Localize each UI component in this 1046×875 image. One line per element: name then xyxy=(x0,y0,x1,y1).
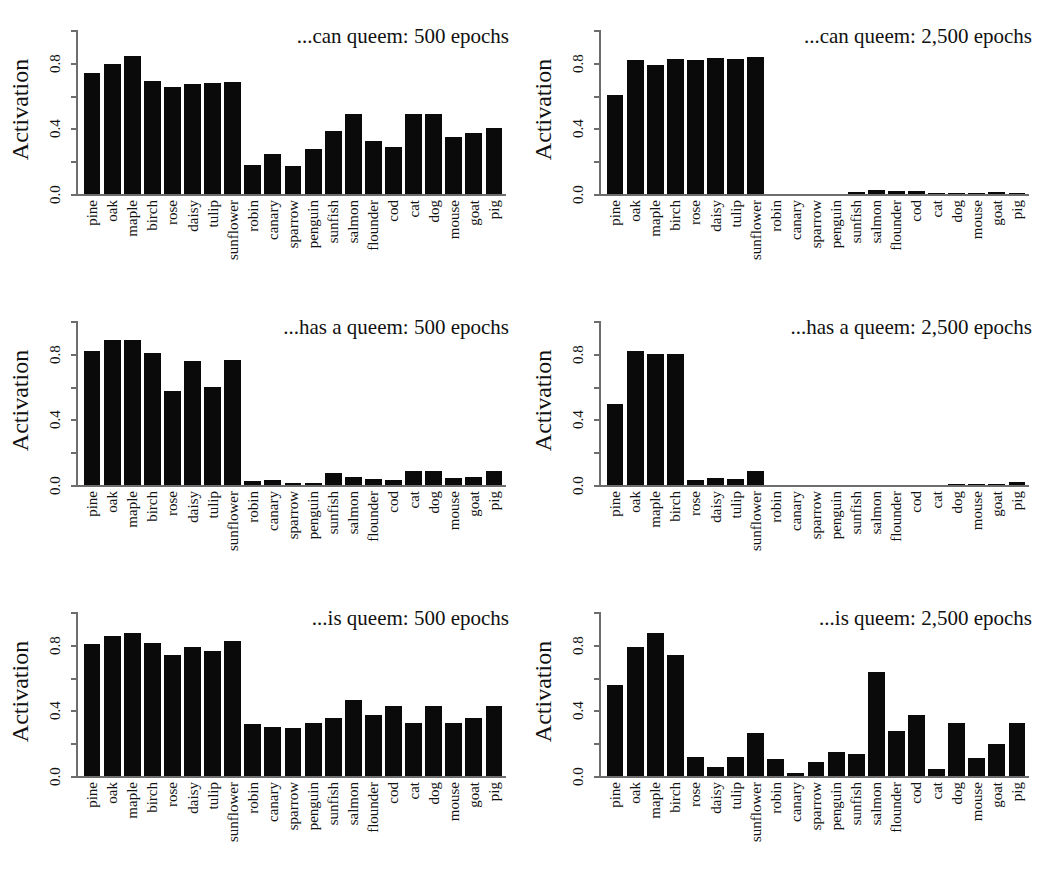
bar xyxy=(627,60,644,194)
x-tick-label: rose xyxy=(165,491,179,577)
x-tick-labels: pineoakmaplebirchrosedaisytulipsunflower… xyxy=(82,200,504,288)
x-axis-line xyxy=(78,485,506,487)
y-tick-mark xyxy=(594,678,599,680)
x-tick-label: pine xyxy=(85,491,99,577)
bar xyxy=(988,192,1005,194)
bar xyxy=(224,360,241,485)
x-tick-label: birch xyxy=(668,491,682,577)
bar xyxy=(224,641,241,776)
y-tick-labels: 0.00.40.8 xyxy=(563,600,593,782)
y-tick-mark xyxy=(594,161,599,163)
x-tick-label: sunfish xyxy=(326,782,340,868)
bar xyxy=(465,718,482,776)
bar xyxy=(465,477,482,485)
x-tick-label: penguin xyxy=(306,782,320,868)
y-tick-mark xyxy=(594,612,599,614)
x-tick-label: dog xyxy=(950,200,964,286)
bar xyxy=(204,387,221,485)
y-tick-mark xyxy=(71,128,76,130)
y-axis-title-text: Activation xyxy=(530,311,557,491)
bar xyxy=(848,754,865,776)
x-tick-label: sunfish xyxy=(326,491,340,577)
x-tick-label: sunflower xyxy=(226,782,240,868)
bar xyxy=(667,59,684,194)
x-tick-label: tulip xyxy=(729,200,743,286)
panel-title: ...is queem: 500 epochs xyxy=(312,606,509,631)
y-tick-label: 0.4 xyxy=(40,702,70,716)
bar xyxy=(405,114,422,194)
x-tick-label: cat xyxy=(930,491,944,577)
bar xyxy=(285,166,302,194)
y-tick-mark xyxy=(71,776,76,778)
y-tick-mark xyxy=(71,743,76,745)
bar xyxy=(647,633,664,777)
bar xyxy=(848,192,865,194)
bar xyxy=(1009,193,1026,194)
bar xyxy=(204,83,221,194)
bar xyxy=(707,767,724,776)
bar xyxy=(948,484,965,485)
bar xyxy=(988,484,1005,485)
y-tick-label: 0.0 xyxy=(40,477,70,491)
y-tick-label: 0.0 xyxy=(40,186,70,200)
x-tick-label: sunflower xyxy=(749,782,763,868)
bar xyxy=(486,706,503,776)
bar xyxy=(325,131,342,194)
bar xyxy=(84,73,101,194)
x-tick-label: dog xyxy=(427,782,441,868)
x-tick-label: daisy xyxy=(709,491,723,577)
bar xyxy=(727,479,744,485)
x-tick-label: robin xyxy=(769,782,783,868)
bar xyxy=(84,351,101,485)
x-tick-label: mouse xyxy=(447,491,461,577)
x-tick-label: flounder xyxy=(366,782,380,868)
x-tick-label: canary xyxy=(789,200,803,286)
x-tick-label: birch xyxy=(668,782,682,868)
x-tick-label: cod xyxy=(909,782,923,868)
x-tick-label: dog xyxy=(427,200,441,286)
x-tick-label: penguin xyxy=(306,491,320,577)
bar xyxy=(627,351,644,485)
bar xyxy=(345,477,362,485)
y-tick-labels: 0.00.40.8 xyxy=(40,600,70,782)
bar xyxy=(627,647,644,776)
bar xyxy=(184,84,201,194)
x-tick-label: goat xyxy=(990,200,1004,286)
panel-title: ...has a queem: 2,500 epochs xyxy=(791,315,1032,340)
x-tick-label: salmon xyxy=(869,491,883,577)
panel-title: ...is queem: 2,500 epochs xyxy=(819,606,1032,631)
figure-activation-panels: Activation0.00.40.8...can queem: 500 epo… xyxy=(0,0,1046,875)
x-tick-labels: pineoakmaplebirchrosedaisytulipsunflower… xyxy=(605,200,1027,288)
bar xyxy=(104,64,121,194)
y-tick-label: 0.4 xyxy=(563,120,593,134)
y-axis-title: Activation xyxy=(523,600,563,780)
x-tick-label: goat xyxy=(990,782,1004,868)
x-tick-label: cat xyxy=(407,200,421,286)
bar xyxy=(767,759,784,776)
x-tick-label: birch xyxy=(145,782,159,868)
y-axis-title: Activation xyxy=(0,309,40,489)
bar xyxy=(647,354,664,485)
x-tick-label: sparrow xyxy=(286,200,300,286)
bar xyxy=(365,479,382,485)
y-tick-label: 0.4 xyxy=(563,411,593,425)
bar xyxy=(345,700,362,776)
x-tick-label: birch xyxy=(668,200,682,286)
x-tick-label: daisy xyxy=(186,782,200,868)
x-tick-label: maple xyxy=(648,491,662,577)
chart-panel-0: Activation0.00.40.8...can queem: 500 epo… xyxy=(0,0,523,292)
y-axis-line xyxy=(76,30,78,196)
y-tick-label: 0.8 xyxy=(563,55,593,69)
y-tick-label: 0.8 xyxy=(563,637,593,651)
x-tick-label: pine xyxy=(608,782,622,868)
x-tick-label: flounder xyxy=(366,491,380,577)
x-tick-label: sparrow xyxy=(809,491,823,577)
x-tick-label: sparrow xyxy=(286,782,300,868)
x-tick-label: pig xyxy=(487,491,501,577)
x-tick-label: cat xyxy=(930,782,944,868)
y-tick-labels: 0.00.40.8 xyxy=(563,309,593,491)
y-axis-line xyxy=(76,321,78,487)
x-tick-label: robin xyxy=(769,491,783,577)
bar xyxy=(1009,723,1026,776)
bar xyxy=(385,706,402,776)
